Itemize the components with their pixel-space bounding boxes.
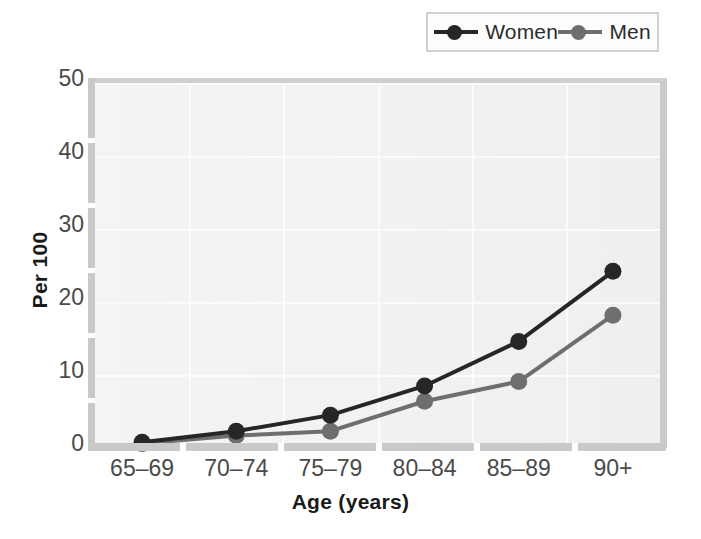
data-point (228, 423, 245, 440)
legend-dot-men (571, 25, 586, 40)
chart-figure: Women Men 50403020100 65–6970–7475–7980–… (0, 0, 701, 539)
data-point (604, 307, 621, 324)
series-line (142, 315, 613, 443)
x-tick-label: 90+ (553, 455, 673, 482)
legend-label-women: Women (485, 20, 558, 44)
data-point (416, 393, 433, 410)
y-tick-label: 40 (12, 138, 84, 165)
series-layer (95, 83, 660, 448)
plot-area (95, 78, 667, 448)
x-axis-title: Age (years) (0, 490, 701, 514)
x-axis-line (88, 443, 666, 451)
y-axis-line (88, 78, 95, 446)
x-axis-ticks: 65–6970–7475–7980–8485–8990+ (95, 455, 660, 489)
y-tick-label: 0 (12, 430, 84, 457)
data-point (416, 377, 433, 394)
data-point (510, 333, 527, 350)
series-women (134, 263, 622, 451)
legend-item-women: Women (434, 20, 558, 44)
legend-marker-men-icon (558, 24, 602, 40)
legend-dot-women (447, 25, 462, 40)
chart-legend: Women Men (426, 12, 659, 52)
legend-marker-women-icon (434, 24, 478, 40)
data-point (322, 423, 339, 440)
legend-label-men: Men (609, 20, 650, 44)
legend-item-men: Men (558, 20, 650, 44)
data-point (604, 263, 621, 280)
series-men (134, 307, 622, 452)
y-axis-title: Per 100 (28, 231, 52, 308)
data-point (322, 407, 339, 424)
y-tick-label: 50 (12, 65, 84, 92)
y-tick-label: 10 (12, 357, 84, 384)
data-point (510, 373, 527, 390)
